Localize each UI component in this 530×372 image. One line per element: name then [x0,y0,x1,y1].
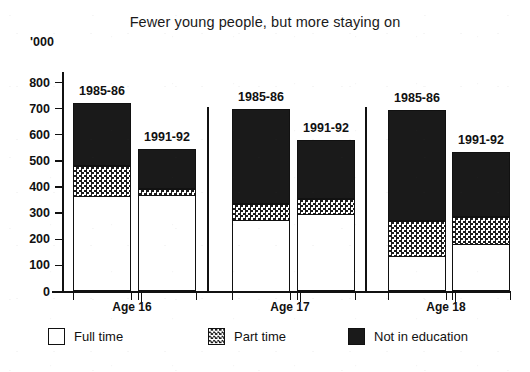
bar-segment-full-time [139,196,195,291]
y-tick-mark [55,160,64,161]
bar-segment-not-in-education [139,150,195,189]
x-tick-mark [355,292,356,300]
y-tick-mark [55,239,64,240]
group-divider-line [365,107,367,292]
x-group-label: Age 17 [270,300,309,314]
x-group-label: Age 16 [112,300,151,314]
bar-period-label: 1991-92 [458,133,504,147]
x-tick-mark [446,292,447,300]
legend-label: Not in education [374,329,468,344]
bar-period-label: 1985-86 [238,90,284,104]
y-tick-label: 400 [16,181,50,194]
y-axis-line [62,72,64,292]
x-tick-mark [232,292,233,300]
bar-period-label: 1985-86 [394,91,440,105]
x-group-label: Age 18 [426,300,465,314]
y-tick-label: 300 [16,207,50,220]
stacked-bar [452,152,510,292]
y-tick-mark [55,265,64,266]
bar-segment-full-time [233,221,289,290]
x-tick-mark [510,292,511,300]
legend-item: Not in education [348,328,468,345]
y-axis-unit-label: '000 [30,35,54,49]
bar-segment-not-in-education [233,110,289,205]
stacked-bar [388,110,446,292]
legend-item: Full time [48,328,123,345]
legend-swatch-not-in-education [348,328,365,345]
y-tick-mark [55,291,64,292]
legend-item: Part time [208,328,286,345]
chart-legend: Full timePart timeNot in education [0,328,530,360]
bar-segment-not-in-education [389,111,445,222]
x-tick-mark [138,292,139,300]
bar-segment-part-time [233,204,289,221]
bar-segment-full-time [74,197,130,290]
bar-period-label: 1991-92 [303,121,349,135]
x-tick-mark [388,292,389,300]
bar-segment-not-in-education [298,141,354,199]
x-tick-mark [131,292,132,300]
legend-swatch-full-time [48,328,65,345]
y-tick-label: 700 [16,102,50,115]
y-tick-mark [55,82,64,83]
bar-segment-part-time [74,166,130,197]
y-tick-label: 0 [16,285,50,298]
bar-segment-full-time [453,245,509,290]
x-tick-mark [452,292,453,300]
y-tick-mark [55,108,64,109]
y-tick-label: 100 [16,259,50,272]
bar-segment-part-time [389,221,445,257]
chart-title: Fewer young people, but more staying on [0,14,530,30]
x-tick-mark [73,292,74,300]
stacked-bar [297,140,355,292]
stacked-bar [138,149,196,291]
bar-period-label: 1991-92 [144,130,190,144]
stacked-bar [232,109,290,292]
y-tick-mark [55,134,64,135]
legend-label: Part time [234,329,286,344]
y-tick-label: 800 [16,76,50,89]
bar-segment-part-time [453,217,509,246]
x-tick-mark [297,292,298,300]
legend-label: Full time [74,329,123,344]
y-tick-mark [55,212,64,213]
bar-segment-full-time [298,215,354,290]
bar-segment-not-in-education [74,104,130,165]
x-tick-mark [290,292,291,300]
y-tick-label: 500 [16,155,50,168]
stacked-bar [73,103,131,291]
bar-segment-not-in-education [453,153,509,217]
legend-swatch-part-time [208,328,225,345]
chart-figure: Fewer young people, but more staying on … [0,0,530,372]
group-divider-line [207,107,209,292]
bar-segment-part-time [298,199,354,215]
bar-period-label: 1985-86 [79,84,125,98]
y-tick-label: 600 [16,129,50,142]
y-tick-label: 200 [16,233,50,246]
bar-segment-full-time [389,257,445,290]
y-tick-mark [55,186,64,187]
x-tick-mark [196,292,197,300]
